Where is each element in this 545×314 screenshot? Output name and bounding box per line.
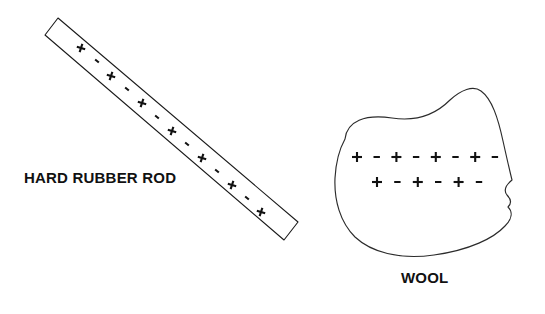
hard-rubber-rod-label: HARD RUBBER ROD [24, 170, 176, 185]
hard-rubber-rod-shape [45, 18, 298, 240]
hard-rubber-rod-group [45, 18, 298, 240]
diagram-canvas: HARD RUBBER ROD WOOL [0, 0, 545, 314]
wool-label: WOOL [401, 270, 448, 285]
wool-group [335, 88, 512, 256]
diagram-svg [0, 0, 545, 314]
wool-shape [335, 88, 512, 256]
